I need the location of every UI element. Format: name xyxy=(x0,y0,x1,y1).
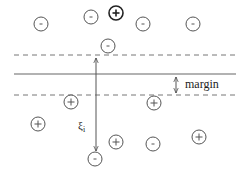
negative-point xyxy=(186,17,200,31)
negative-point xyxy=(34,17,48,31)
slack-subscript: i xyxy=(83,125,86,134)
positive-point xyxy=(31,117,45,131)
positive-point xyxy=(109,135,123,149)
margin-label: margin xyxy=(185,77,219,91)
negative-point xyxy=(84,10,98,24)
slack-label: ξi xyxy=(78,119,86,134)
negative-point xyxy=(136,17,150,31)
negative-point xyxy=(88,152,102,166)
svm-margin-diagram: margin ξi xyxy=(0,0,249,179)
data-points xyxy=(31,6,206,166)
positive-point xyxy=(192,130,206,144)
positive-point xyxy=(109,6,123,20)
positive-point xyxy=(64,95,78,109)
negative-point xyxy=(101,39,115,53)
positive-point xyxy=(147,96,161,110)
negative-point xyxy=(146,137,160,151)
